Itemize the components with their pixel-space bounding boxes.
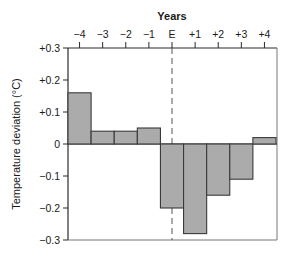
y-tick-label: +0.1 — [39, 106, 60, 118]
y-tick-label: +0.3 — [39, 42, 60, 54]
x-tick-label: +4 — [258, 28, 270, 40]
bar-5 — [184, 144, 207, 234]
y-tick-label: −0.2 — [39, 202, 60, 214]
temperature-deviation-chart: −4−3−2−1E+1+2+3+4 +0.3+0.2+0.10−0.1−0.2−… — [0, 0, 293, 257]
bar-4 — [160, 144, 183, 208]
bar-8 — [253, 138, 276, 144]
x-tick-label: E — [168, 28, 175, 40]
bar-1 — [91, 131, 114, 144]
bar-3 — [137, 128, 160, 144]
y-tick-label: 0 — [54, 138, 60, 150]
y-axis: +0.3+0.2+0.10−0.1−0.2−0.3 — [39, 42, 68, 246]
x-tick-label: −4 — [74, 28, 86, 40]
x-tick-label: +2 — [212, 28, 224, 40]
x-tick-label: +1 — [189, 28, 201, 40]
x-tick-label: −1 — [143, 28, 155, 40]
y-axis-title: Temperature deviation (°C) — [10, 78, 22, 210]
bar-0 — [68, 93, 91, 144]
x-tick-label: −3 — [97, 28, 109, 40]
y-tick-label: −0.1 — [39, 170, 60, 182]
x-tick-label: −2 — [120, 28, 132, 40]
y-tick-label: −0.3 — [39, 234, 60, 246]
bar-6 — [207, 144, 230, 195]
y-tick-label: +0.2 — [39, 74, 60, 86]
x-axis: −4−3−2−1E+1+2+3+4 — [74, 28, 271, 48]
bar-7 — [230, 144, 253, 179]
bar-2 — [114, 131, 137, 144]
x-tick-label: +3 — [235, 28, 247, 40]
x-axis-title: Years — [157, 10, 186, 22]
